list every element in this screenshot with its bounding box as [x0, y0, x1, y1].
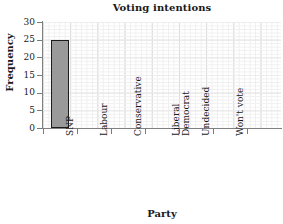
y-axis-tick-label: 0 — [0, 124, 35, 133]
x-axis-category-label: LiberalDemocrat — [172, 66, 186, 136]
x-axis-category-label: Labour — [99, 66, 113, 136]
x-axis-category-label-line: Liberal — [171, 104, 181, 137]
y-axis-tick — [37, 40, 42, 41]
x-axis-category-label-line: SNP — [65, 116, 75, 136]
y-axis-tick-label: 5 — [0, 106, 35, 115]
x-axis-category-label-line: Labour — [99, 103, 109, 136]
y-axis-line — [42, 21, 43, 129]
x-axis-category-label-line: Won't vote — [235, 88, 245, 136]
y-axis-title: Frequency — [4, 23, 15, 103]
x-axis-category-label-line: Conservative — [133, 76, 143, 136]
x-axis-category-label: SNP — [65, 66, 79, 136]
x-axis-category-label: Undecided — [201, 66, 215, 136]
y-axis-tick — [37, 22, 42, 23]
x-axis-category-label-line: Undecided — [201, 87, 211, 136]
x-axis-category-label: Conservative — [133, 66, 147, 136]
bar-chart: Voting intentions 051015202530 SNPLabour… — [0, 0, 283, 224]
y-axis-tick — [37, 128, 42, 129]
x-axis-title: Party — [43, 208, 281, 219]
y-axis-tick — [37, 93, 42, 94]
y-axis-tick — [37, 57, 42, 58]
x-axis-category-label-line: Democrat — [181, 66, 191, 136]
x-axis-category-label: Won't vote — [235, 66, 249, 136]
chart-title: Voting intentions — [43, 2, 281, 13]
y-axis-tick — [37, 110, 42, 111]
x-axis-tick — [43, 129, 44, 134]
y-axis-tick — [37, 75, 42, 76]
